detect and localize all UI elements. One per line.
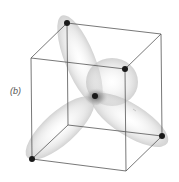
- atom-top-back-left: [64, 20, 70, 26]
- panel-label: (b): [10, 86, 21, 96]
- atom-bottom-back-right: [159, 133, 165, 139]
- atom-center: [92, 93, 98, 99]
- tetrahedral-cube-diagram: [0, 0, 179, 182]
- atom-top-front-right: [122, 66, 128, 72]
- atom-bottom-front-left: [29, 156, 35, 162]
